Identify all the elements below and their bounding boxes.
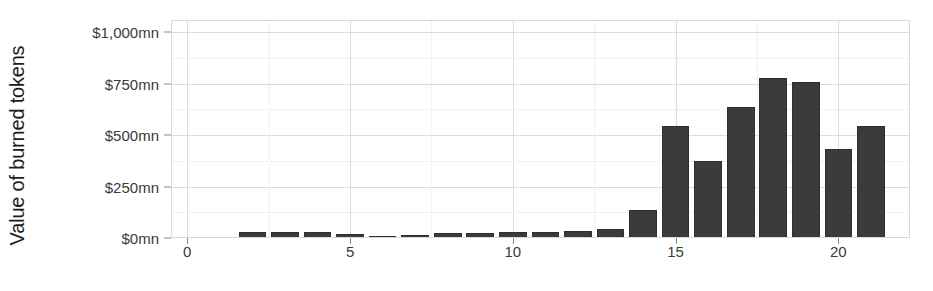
- y-axis-tick-mark: [164, 238, 171, 239]
- x-axis-tick-mark: [187, 238, 188, 244]
- y-axis-tick-mark: [164, 186, 171, 187]
- y-axis-tick-mark: [164, 83, 171, 84]
- bar-chart: Value of burned tokens $0mn$250mn$500mn$…: [0, 0, 933, 291]
- x-axis-tick-label: 5: [346, 243, 354, 260]
- x-axis-tick-label: 10: [504, 243, 521, 260]
- plot-frame: [171, 20, 910, 238]
- x-axis-tick-mark: [513, 238, 514, 244]
- y-axis-tick-mark: [164, 32, 171, 33]
- x-axis-tick-label: 0: [183, 243, 191, 260]
- x-axis-tick-label: 20: [830, 243, 847, 260]
- x-axis-tick-mark: [350, 238, 351, 244]
- x-axis-tick-mark: [676, 238, 677, 244]
- y-axis-tick-label: $250mn: [19, 178, 159, 195]
- y-axis-tick-mark: [164, 135, 171, 136]
- x-axis-tick-label: 15: [667, 243, 684, 260]
- y-axis-tick-label: $500mn: [19, 127, 159, 144]
- y-axis-title: Value of burned tokens: [0, 0, 34, 291]
- x-axis-tick-mark: [838, 238, 839, 244]
- y-axis-tick-label: $0mn: [19, 230, 159, 247]
- y-axis-tick-label: $750mn: [19, 75, 159, 92]
- y-axis-tick-label: $1,000mn: [19, 24, 159, 41]
- plot-area: [171, 20, 910, 238]
